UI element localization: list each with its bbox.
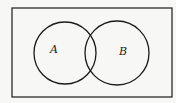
set-b-circle — [85, 21, 149, 85]
universe-rectangle — [12, 8, 172, 97]
set-a-circle — [34, 22, 96, 84]
set-b-label: B — [118, 45, 127, 58]
set-a-label: A — [49, 43, 58, 56]
venn-diagram: A B — [0, 0, 176, 103]
